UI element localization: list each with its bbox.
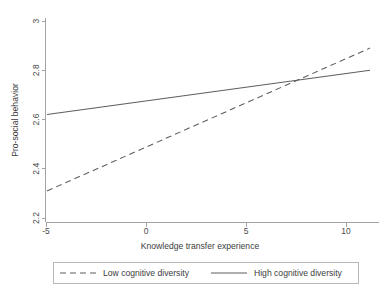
legend-label-low-cognitive-diversity: Low cognitive diversity [103, 268, 190, 278]
chart-legend: Low cognitive diversity High cognitive d… [54, 263, 359, 284]
prosocial-behavior-line-chart: 3 2.8 2.6 2.4 2.2 Pro-social behavior -5… [0, 0, 387, 291]
y-tick-label-2.6: 2.6 [31, 113, 41, 125]
y-tick-label-2.4: 2.4 [31, 163, 41, 175]
y-tick-label-2.8: 2.8 [31, 64, 41, 76]
x-tick-label-5: 5 [244, 226, 249, 236]
y-axis-title: Pro-social behavior [10, 83, 20, 157]
legend-label-high-cognitive-diversity: High cognitive diversity [254, 268, 343, 278]
y-tick-label-2.2: 2.2 [31, 212, 41, 224]
x-tick-label-0: 0 [144, 226, 149, 236]
x-tick-label-10: 10 [341, 226, 351, 236]
chart-container: 3 2.8 2.6 2.4 2.2 Pro-social behavior -5… [0, 0, 387, 291]
x-axis: -5 0 5 10 Knowledge transfer experience [42, 223, 379, 252]
plot-area [47, 48, 370, 191]
y-axis: 3 2.8 2.6 2.4 2.2 Pro-social behavior [10, 18, 46, 224]
series-line-low-cognitive-diversity [47, 48, 370, 191]
x-tick-label--5: -5 [42, 226, 50, 236]
x-axis-title: Knowledge transfer experience [141, 241, 260, 251]
series-line-high-cognitive-diversity [47, 70, 370, 114]
y-tick-label-3: 3 [31, 18, 41, 23]
